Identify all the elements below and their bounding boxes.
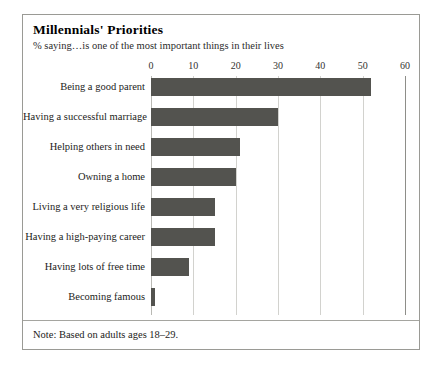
x-tick-label: 50 (358, 60, 368, 72)
x-tick-label: 30 (273, 60, 283, 72)
bar (151, 78, 371, 96)
bar (151, 108, 278, 126)
chart-row: Becoming famous (23, 288, 419, 306)
chart-row: Having lots of free time (23, 258, 419, 276)
category-label: Being a good parent (23, 78, 145, 96)
category-label: Owning a home (23, 168, 145, 186)
category-label: Having a successful marriage (23, 108, 145, 126)
category-label: Having a high-paying career (23, 228, 145, 246)
chart-subtitle: % saying…is one of the most important th… (33, 39, 419, 53)
x-axis-tick-labels: 0102030405060 (23, 60, 419, 76)
note-separator (23, 320, 419, 321)
x-tick-label: 0 (149, 60, 154, 72)
bar-rows: Being a good parentHaving a successful m… (23, 76, 419, 315)
category-label: Becoming famous (23, 288, 145, 306)
bar (151, 198, 215, 216)
x-tick-label: 10 (188, 60, 198, 72)
page-title: Millennials' Priorities (33, 22, 419, 38)
chart-row: Living a very religious life (23, 198, 419, 216)
chart-header: Millennials' Priorities % saying…is one … (23, 15, 419, 53)
bar (151, 138, 240, 156)
category-label: Helping others in need (23, 138, 145, 156)
x-tick-label: 20 (231, 60, 241, 72)
chart-row: Being a good parent (23, 78, 419, 96)
chart-row: Helping others in need (23, 138, 419, 156)
category-label: Having lots of free time (23, 258, 145, 276)
chart-figure: Millennials' Priorities % saying…is one … (22, 14, 420, 350)
bar (151, 168, 236, 186)
x-tick-label: 40 (315, 60, 325, 72)
bar (151, 228, 215, 246)
chart-row: Owning a home (23, 168, 419, 186)
bar (151, 288, 155, 306)
chart-note: Note: Based on adults ages 18–29. (33, 328, 178, 342)
x-tick-label: 60 (400, 60, 410, 72)
chart-row: Having a high-paying career (23, 228, 419, 246)
bar (151, 258, 189, 276)
category-label: Living a very religious life (23, 198, 145, 216)
plot-area: 0102030405060 Being a good parentHaving … (23, 60, 419, 349)
chart-row: Having a successful marriage (23, 108, 419, 126)
